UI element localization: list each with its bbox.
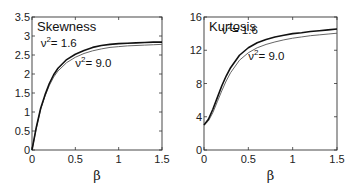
y-tick-label: 1.5 [15, 87, 30, 99]
y-tick-label: 0.5 [15, 125, 30, 137]
plot-title: Skewness [37, 19, 97, 34]
y-tick-label: 12 [190, 44, 202, 56]
x-axis-label: β [267, 168, 275, 183]
series-annotation: ν2= 9.0 [248, 48, 284, 62]
x-tick-label: 1.5 [154, 153, 169, 165]
y-tick-label: 8 [196, 78, 202, 90]
y-tick-label: 2 [24, 68, 30, 80]
y-tick-label: 16 [190, 11, 202, 23]
x-tick-label: 0.5 [241, 153, 256, 165]
x-axis-label: β [93, 168, 101, 183]
series-annotation: ν2= 1.6 [41, 35, 77, 49]
series-annotation: ν2= 9.0 [75, 55, 111, 69]
x-tick-label: 1 [290, 153, 296, 165]
y-tick-label: 0 [24, 144, 30, 156]
x-tick-label: 1.5 [329, 153, 344, 165]
figure: 00.511.500.511.522.533.5βSkewnessν2= 1.6… [0, 0, 357, 189]
y-tick-label: 1 [24, 106, 30, 118]
x-tick-label: 1 [116, 153, 122, 165]
y-tick-label: 0 [196, 144, 202, 156]
skewness-plot: 00.511.500.511.522.533.5βSkewnessν2= 1.6… [15, 11, 170, 183]
y-tick-label: 4 [196, 111, 202, 123]
plot-frame [204, 17, 337, 150]
kurtosis-plot: 00.511.50481216βKurtosisν2= 1.6ν2= 9.0 [190, 11, 345, 183]
x-tick-label: 0.5 [68, 153, 83, 165]
y-tick-label: 3 [24, 30, 30, 42]
y-tick-label: 3.5 [15, 11, 30, 23]
series-annotation: ν2= 1.6 [222, 22, 258, 36]
y-tick-label: 2.5 [15, 49, 30, 61]
